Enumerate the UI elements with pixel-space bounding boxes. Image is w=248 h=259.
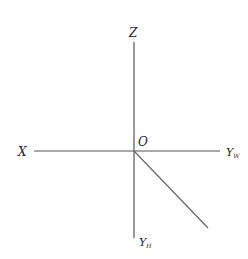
yw-label: YW [226, 146, 240, 159]
z-label: Z [128, 26, 138, 40]
diagram-svg: Z X O YW YH [0, 0, 248, 259]
x-label: X [17, 145, 27, 159]
yh-label: YH [139, 236, 152, 249]
origin-label: O [138, 135, 148, 149]
yw-label-sub: W [233, 152, 240, 159]
projection-diagram: Z X O YW YH [0, 0, 248, 259]
yh-label-sub: H [145, 242, 152, 249]
diagonal-line [134, 151, 208, 228]
